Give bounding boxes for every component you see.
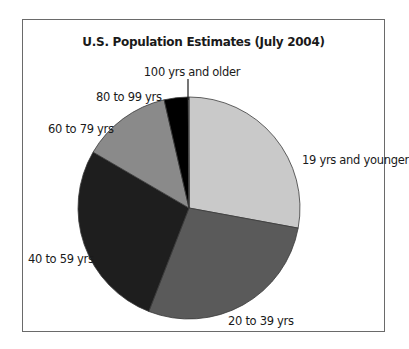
label-80-to-99: 80 to 99 yrs — [96, 90, 162, 104]
label-40-to-59: 40 to 59 yrs — [28, 252, 94, 266]
label-20-to-39: 20 to 39 yrs — [228, 314, 294, 328]
label-100-and-older: 100 yrs and older — [144, 65, 241, 79]
label-19-and-younger: 19 yrs and younger — [302, 153, 409, 167]
slice-19-and-younger — [189, 97, 300, 228]
label-60-to-79: 60 to 79 yrs — [48, 122, 114, 136]
pie-chart: 100 yrs and older 80 to 99 yrs 60 to 79 … — [0, 0, 409, 349]
